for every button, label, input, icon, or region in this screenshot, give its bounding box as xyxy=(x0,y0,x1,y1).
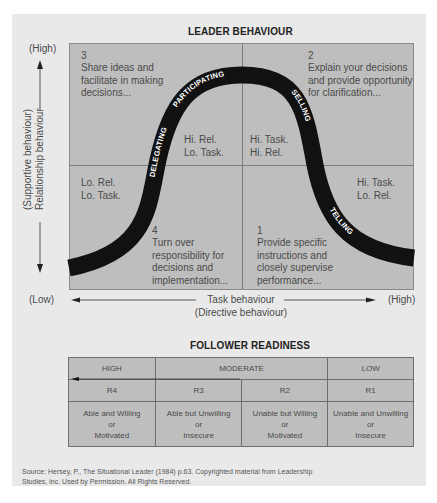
readiness-level-high: HIGH xyxy=(69,358,156,380)
readiness-code-r2: R2 xyxy=(242,380,328,402)
desc-line: Motivated xyxy=(69,430,155,441)
desc-line: or xyxy=(156,419,242,430)
readiness-desc-r1: Unable and Unwilling or Insecure xyxy=(328,402,414,447)
x-axis-title-line1: Task behaviour xyxy=(201,294,281,305)
readiness-code-r3: R3 xyxy=(155,380,242,402)
y-axis-low-label: (Low) xyxy=(29,294,54,305)
desc-line: Motivated xyxy=(242,430,327,441)
desc-line: or xyxy=(242,419,327,430)
desc-line: Insecure xyxy=(328,430,413,441)
source-line1: Source: Hersey, P., The Situational Lead… xyxy=(22,467,312,477)
x-axis-right-arrow-icon xyxy=(366,298,376,303)
follower-readiness-table: HIGH MODERATE LOW R4 R3 R2 R1 Able and W… xyxy=(68,357,414,447)
desc-line: or xyxy=(69,419,155,430)
quadrant-4-number: 4 xyxy=(152,225,158,238)
y-axis-title-line1: (Supportive behaviour) xyxy=(22,130,34,210)
quadrant-1-inner: Hi. Task. Lo. Rel. xyxy=(357,177,395,202)
readiness-desc-r4: Able and Willing or Motivated xyxy=(69,402,156,447)
y-axis-up-arrow-icon xyxy=(37,60,43,69)
quadrant-3-number: 3 xyxy=(81,50,87,63)
quadrant-4-inner: Lo. Rel. Lo. Task. xyxy=(81,177,121,202)
desc-line: Unable but Willing xyxy=(242,408,327,419)
x-axis-high-label: (High) xyxy=(388,294,415,305)
quadrant-2-number: 2 xyxy=(308,50,314,63)
y-axis-down-arrow-icon xyxy=(37,264,43,273)
y-axis-title: (Supportive behaviour) Relationship beha… xyxy=(22,130,82,210)
readiness-desc-r3: Able but Unwilling or Insecure xyxy=(155,402,242,447)
y-axis-high-label: (High) xyxy=(29,43,56,54)
source-line2: Studies, inc. Used by Permission. All Ri… xyxy=(22,477,312,487)
x-axis-left-arrow-icon xyxy=(71,298,80,303)
readiness-code-r4: R4 xyxy=(69,380,156,402)
desc-line: or xyxy=(328,419,413,430)
follower-readiness-title: FOLLOWER READINESS xyxy=(190,340,310,351)
x-axis-title-line2: (Directive behaviour) xyxy=(186,307,296,318)
quadrant-2-description: Explain your decisions and provide oppor… xyxy=(308,62,413,100)
quadrant-3-inner: Hi. Rel. Lo. Task. xyxy=(184,134,224,159)
desc-line: Able and Willing xyxy=(69,408,155,419)
desc-line: Able but Unwilling xyxy=(156,408,242,419)
quadrant-2-inner: Hi. Task. Hi. Rel. xyxy=(250,134,288,159)
quadrant-3-description: Share ideas and facilitate in making dec… xyxy=(81,62,163,100)
readiness-code-r1: R1 xyxy=(328,380,414,402)
source-citation: Source: Hersey, P., The Situational Lead… xyxy=(22,467,312,487)
quadrant-1-description: Provide specific instructions and closel… xyxy=(257,237,333,287)
readiness-level-low: LOW xyxy=(328,358,414,380)
quadrant-1-number: 1 xyxy=(257,225,263,238)
desc-line: Insecure xyxy=(156,430,242,441)
y-axis-title-line2: Relationship behaviour xyxy=(34,130,46,210)
quadrant-4-description: Turn over responsibility for decisions a… xyxy=(152,237,228,287)
readiness-desc-r2: Unable but Willing or Motivated xyxy=(242,402,328,447)
desc-line: Unable and Unwilling xyxy=(328,408,413,419)
readiness-level-moderate: MODERATE xyxy=(155,358,327,380)
